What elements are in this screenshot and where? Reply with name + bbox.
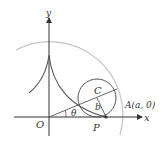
- diagram-canvas: y x O C b A(a, 0) P θ: [0, 0, 165, 150]
- point-P-label: P: [92, 122, 100, 133]
- angle-theta-label: θ: [71, 108, 77, 118]
- point-A-label: A(a, 0): [124, 100, 156, 110]
- angle-arc: [65, 110, 66, 117]
- point-P: [104, 115, 107, 118]
- x-axis-label: x: [144, 112, 150, 123]
- big-circle: [16, 42, 123, 135]
- y-axis-label: y: [45, 8, 52, 18]
- radius-line-OC: [49, 89, 117, 117]
- radius-b-label: b: [95, 102, 101, 112]
- center-label: C: [94, 85, 102, 96]
- origin-label: O: [36, 119, 44, 130]
